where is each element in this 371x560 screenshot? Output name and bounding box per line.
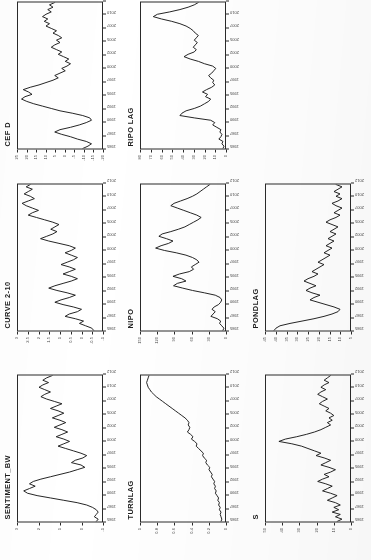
time-axis-tick-label: 1992: [230, 285, 239, 289]
value-axis-tick-mark: [333, 523, 334, 526]
time-axis-tick-mark: [351, 317, 354, 318]
chart-panel-nipo[interactable]: NIPO 1501209060300 198519871990199219951…: [126, 184, 242, 359]
time-axis-tick-mark: [351, 414, 354, 415]
time-axis-tick-mark: [103, 414, 106, 415]
value-axis-tick-label: 5: [53, 153, 57, 158]
time-axis-tick-label: 2012: [354, 178, 363, 182]
time-axis-tick-label: 2007: [354, 205, 363, 209]
time-axis-tick-label: 1995: [230, 463, 239, 467]
time-axis-tick-mark: [226, 237, 229, 238]
time-axis-tick-label: 1997: [354, 450, 363, 454]
time-axis-tick-label: 1987: [354, 312, 363, 316]
time-axis-tick-label: 1992: [354, 476, 363, 480]
value-axis-tick-label: 20: [316, 335, 320, 342]
panel-title: CEF D: [3, 122, 12, 146]
value-axis-tick-mark: [60, 332, 61, 335]
time-axis-tick-mark: [351, 263, 354, 264]
time-axis-tick-mark: [103, 481, 106, 482]
chart-panel-ripo-lag[interactable]: RIPO LAG 80706050403020100 1985198719901…: [126, 2, 242, 177]
panel-cell-nipo: NIPO 1501209060300 198519871990199219951…: [122, 178, 246, 364]
time-axis-tick-label: 1990: [230, 299, 239, 303]
value-axis-tick-mark: [140, 332, 141, 335]
time-axis-tick-label: 1990: [230, 490, 239, 494]
plot-area: 50403020100: [265, 375, 351, 550]
value-axis-tick-mark: [172, 150, 173, 153]
time-axis-tick-label: 1990: [107, 490, 116, 494]
value-axis-tick-mark: [103, 523, 104, 526]
plot-frame: [17, 375, 103, 523]
value-axis-tick-label: 120: [155, 335, 159, 344]
value-axis-tick-mark: [351, 523, 352, 526]
time-axis-tick-mark: [226, 28, 229, 29]
time-axis-tick-label: 2007: [107, 396, 116, 400]
time-axis-tick-mark: [226, 290, 229, 291]
panel-cell-empty: [246, 0, 371, 178]
value-axis: 3210-1: [17, 523, 103, 550]
series-line: [278, 376, 341, 522]
value-axis-tick-label: 25: [15, 153, 19, 160]
time-axis-tick-mark: [103, 508, 106, 509]
value-axis-tick-mark: [209, 332, 210, 335]
time-axis-tick-mark: [226, 210, 229, 211]
plot-frame: [17, 2, 103, 150]
value-axis-tick-mark: [28, 332, 29, 335]
time-axis-tick-mark: [226, 401, 229, 402]
time-axis-tick-mark: [351, 290, 354, 291]
panel-cell-sentiment-bw: SENTIMENT_BW 3210-1 19851987199019921995…: [0, 364, 122, 560]
time-axis: 1985198719901992199519972000200220052007…: [226, 184, 242, 332]
time-axis-tick-label: 1985: [230, 144, 239, 148]
value-axis-tick-mark: [174, 332, 175, 335]
value-axis-tick-mark: [351, 332, 352, 335]
time-axis-tick-mark: [226, 81, 229, 82]
value-axis-tick-mark: [39, 523, 40, 526]
time-axis-tick-mark: [103, 41, 106, 42]
time-axis-tick-mark: [103, 522, 106, 523]
value-axis-tick-label: 1.5: [47, 335, 51, 343]
chart-panel-cef-d[interactable]: CEF D 2520151050-5-10-15-20 198519871990…: [3, 2, 119, 177]
panel-title: S: [251, 514, 260, 519]
time-axis-tick-mark: [226, 374, 229, 375]
time-axis-tick-mark: [103, 304, 106, 305]
value-axis: 45403530252015105: [265, 332, 351, 359]
time-axis-tick-mark: [226, 428, 229, 429]
time-axis-tick-mark: [226, 454, 229, 455]
time-axis-tick-mark: [226, 223, 229, 224]
time-axis-tick-mark: [103, 68, 106, 69]
plot-area: 1501209060300: [140, 184, 226, 359]
time-axis: 1985198719901992199519972000200220052007…: [351, 184, 367, 332]
time-axis-tick-label: 1992: [107, 103, 116, 107]
value-axis-tick-mark: [60, 523, 61, 526]
time-axis-tick-label: 1997: [354, 259, 363, 263]
chart-panel-turnlag[interactable]: TURNLAG 10.80.60.40.20 19851987199019921…: [126, 375, 242, 550]
time-axis-tick-label: 1995: [354, 463, 363, 467]
time-axis-tick-label: 2010: [354, 191, 363, 195]
series-canvas: [266, 376, 350, 522]
series-line: [22, 185, 94, 331]
time-axis: 1985198719901992199519972000200220052007…: [226, 2, 242, 150]
value-axis-tick-mark: [151, 150, 152, 153]
time-axis-tick-label: 1997: [107, 77, 116, 81]
plot-frame: [17, 184, 103, 332]
chart-panel-sentiment-bw[interactable]: SENTIMENT_BW 3210-1 19851987199019921995…: [3, 375, 119, 550]
plot-frame: [265, 375, 351, 523]
plot-area: 3210-1: [17, 375, 103, 550]
chart-panel-pondlag[interactable]: PONDLAG 45403530252015105 19851987199019…: [251, 184, 367, 359]
chart-panel-curve-2-10[interactable]: CURVE 2-10 32.521.510.50-0.5-1 198519871…: [3, 184, 119, 359]
time-axis-tick-mark: [226, 522, 229, 523]
time-axis-tick-mark: [226, 250, 229, 251]
chart-panel-s[interactable]: S 50403020100 19851987199019921995199720…: [251, 375, 367, 550]
time-axis-tick-mark: [103, 374, 106, 375]
time-axis-tick-label: 1987: [230, 130, 239, 134]
value-axis-tick-mark: [174, 523, 175, 526]
time-axis-tick-mark: [103, 183, 106, 184]
time-axis-tick-mark: [103, 55, 106, 56]
value-axis-tick-mark: [316, 523, 317, 526]
value-axis-tick-label: 0: [224, 335, 228, 340]
time-axis-tick-label: 1990: [230, 117, 239, 121]
value-axis-tick-mark: [84, 150, 85, 153]
plot-area: 2520151050-5-10-15-20: [17, 2, 103, 177]
time-axis-tick-label: 1987: [107, 312, 116, 316]
value-axis-tick-mark: [103, 332, 104, 335]
plot-frame: [265, 184, 351, 332]
time-axis-tick-label: 1987: [230, 312, 239, 316]
